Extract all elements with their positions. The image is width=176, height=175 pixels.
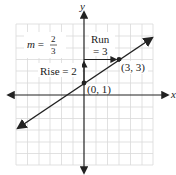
run-label-line2: = 3 (93, 45, 108, 57)
slope-numerator: 2 (51, 34, 56, 44)
coordinate-plane: y x m = 2 3 Rise = 2 Run = 3 (3, 3) (0, … (0, 0, 176, 175)
y-axis-label: y (79, 0, 85, 12)
slope-label: m = (27, 38, 44, 50)
point-label-3-3: (3, 3) (121, 61, 145, 74)
rise-label: Rise = 2 (40, 65, 77, 77)
point-label-0-1: (0, 1) (87, 83, 111, 96)
x-axis-label: x (170, 88, 176, 100)
run-label-line1: Run (91, 33, 110, 45)
slope-denominator: 3 (51, 46, 56, 56)
point-0-1 (82, 81, 87, 86)
